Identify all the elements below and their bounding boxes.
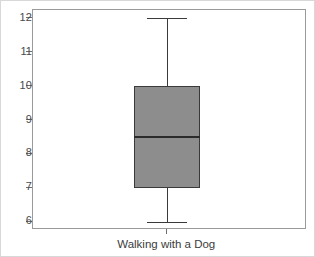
y-axis-label-9: 9 (10, 114, 32, 125)
upper-whisker-line (167, 18, 168, 86)
y-axis-label-12: 12 (10, 12, 32, 23)
lower-whisker-cap (147, 222, 187, 223)
boxplot-figure: 1211109876 Walking with a Dog (0, 0, 315, 257)
x-axis-tick-mark (166, 229, 167, 234)
upper-whisker-cap (147, 18, 187, 19)
plot-area (32, 9, 306, 229)
lower-whisker-line (167, 188, 168, 222)
y-axis: 1211109876 (1, 1, 32, 257)
y-axis-label-8: 8 (10, 147, 32, 158)
y-axis-label-6: 6 (10, 215, 32, 226)
boxplot-series-walking-with-a-dog (33, 10, 305, 228)
y-axis-label-11: 11 (10, 46, 32, 57)
median-line (134, 136, 200, 138)
y-axis-label-10: 10 (10, 80, 32, 91)
x-axis-category-label: Walking with a Dog (117, 238, 215, 251)
y-axis-label-7: 7 (10, 181, 32, 192)
